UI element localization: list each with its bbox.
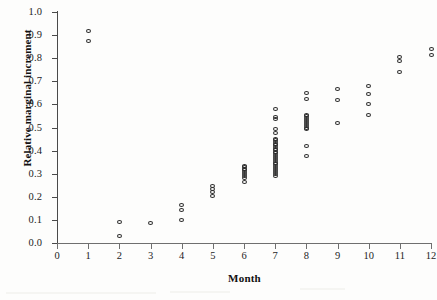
data-point (210, 194, 215, 198)
y-tick-label: 0.7 (29, 75, 42, 86)
data-point (179, 218, 184, 222)
y-tick-label-wrap: 0.5 (0, 122, 50, 134)
x-tick-label: 3 (136, 250, 166, 261)
data-point (304, 127, 309, 131)
data-point (366, 84, 371, 88)
y-tick-label: 0.6 (29, 98, 42, 109)
scatter-plot-figure: Relative marginal increment 0.00.10.20.3… (0, 0, 437, 300)
data-point (366, 113, 371, 117)
x-axis-title: Month (57, 272, 432, 284)
data-point (273, 107, 278, 111)
y-tick-label-wrap: 0.4 (0, 145, 50, 157)
x-tick-label: 6 (229, 250, 259, 261)
y-tick-label-wrap: 0.7 (0, 75, 50, 87)
data-point (335, 87, 340, 91)
y-tick-label: 0.0 (29, 237, 42, 248)
data-point (366, 102, 371, 106)
y-tick-label-wrap: 0.0 (0, 237, 50, 249)
y-tick-label: 0.4 (29, 145, 42, 156)
scan-artifact (300, 288, 345, 290)
x-tick-mark (213, 244, 214, 249)
x-tick-mark (369, 244, 370, 249)
x-tick-mark (400, 244, 401, 249)
x-tick-mark (338, 244, 339, 249)
data-point (397, 59, 402, 63)
x-tick-label: 2 (104, 250, 134, 261)
x-tick-mark (119, 244, 120, 249)
data-point (242, 180, 247, 184)
x-tick-label: 7 (260, 250, 290, 261)
data-point (429, 53, 434, 57)
y-tick-label-wrap: 0.3 (0, 168, 50, 180)
y-tick-label-wrap: 0.2 (0, 191, 50, 203)
data-point (148, 221, 153, 225)
x-tick-mark (57, 244, 58, 249)
data-point (117, 220, 122, 224)
data-point (117, 234, 122, 238)
y-tick-label: 0.8 (29, 52, 42, 63)
scan-artifact (170, 291, 230, 293)
y-tick-label: 1.0 (29, 6, 42, 17)
x-tick-label: 0 (42, 250, 72, 261)
data-point (304, 97, 309, 101)
y-tick-label: 0.1 (29, 214, 42, 225)
x-tick-mark (182, 244, 183, 249)
x-tick-mark (275, 244, 276, 249)
data-point (304, 91, 309, 95)
x-tick-label: 8 (291, 250, 321, 261)
y-tick-label: 0.2 (29, 191, 42, 202)
data-point (86, 39, 91, 43)
y-tick-label-wrap: 1.0 (0, 6, 50, 18)
y-tick-label: 0.5 (29, 122, 42, 133)
y-tick-label-wrap: 0.1 (0, 214, 50, 226)
data-point (429, 47, 434, 51)
x-tick-mark (244, 244, 245, 249)
x-tick-mark (88, 244, 89, 249)
x-tick-label: 11 (385, 250, 415, 261)
x-tick-label: 9 (323, 250, 353, 261)
y-tick-label: 0.9 (29, 29, 42, 40)
data-point (273, 131, 278, 135)
y-tick-label-wrap: 0.8 (0, 52, 50, 64)
scan-artifact (6, 292, 156, 294)
data-point (273, 117, 278, 121)
x-tick-label: 1 (73, 250, 103, 261)
data-point (273, 174, 278, 178)
y-tick-label-wrap: 0.6 (0, 98, 50, 110)
data-point (335, 121, 340, 125)
y-tick-label: 0.3 (29, 168, 42, 179)
data-point (179, 203, 184, 207)
x-tick-label: 5 (198, 250, 228, 261)
data-point (179, 208, 184, 212)
x-tick-label: 12 (416, 250, 437, 261)
data-point (335, 98, 340, 102)
x-tick-mark (306, 244, 307, 249)
y-tick-label-wrap: 0.9 (0, 29, 50, 41)
x-tick-mark (151, 244, 152, 249)
data-point (304, 154, 309, 158)
plot-area (57, 12, 431, 243)
data-point (86, 29, 91, 33)
x-tick-label: 4 (167, 250, 197, 261)
x-tick-label: 10 (354, 250, 384, 261)
data-point (366, 92, 371, 96)
data-point (397, 70, 402, 74)
x-tick-mark (431, 244, 432, 249)
data-point (304, 144, 309, 148)
